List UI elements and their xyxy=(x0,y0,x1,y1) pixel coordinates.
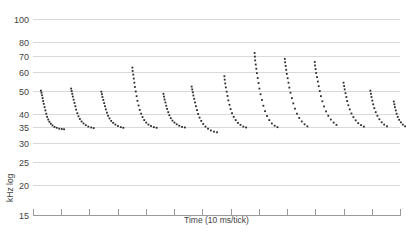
data-point xyxy=(200,120,202,122)
data-point xyxy=(320,95,322,97)
data-point xyxy=(41,92,43,94)
data-point xyxy=(50,123,52,125)
data-point xyxy=(235,119,237,121)
y-axis-title: kHz log xyxy=(5,173,15,202)
data-point xyxy=(375,111,377,113)
data-point xyxy=(194,102,196,104)
data-point xyxy=(286,73,288,75)
data-point xyxy=(78,115,80,117)
data-point xyxy=(254,60,256,62)
data-point xyxy=(344,89,346,91)
y-axis-tick-label: 70 xyxy=(19,52,29,62)
data-point xyxy=(47,119,49,121)
data-point xyxy=(142,116,144,118)
data-point xyxy=(314,65,316,67)
data-point xyxy=(192,91,194,93)
data-point xyxy=(193,98,195,100)
data-point xyxy=(259,88,261,90)
data-point xyxy=(205,126,207,128)
data-point xyxy=(137,100,139,102)
data-point xyxy=(202,123,204,125)
data-point xyxy=(134,86,136,88)
data-point xyxy=(224,79,226,81)
data-point xyxy=(304,123,306,125)
data-point xyxy=(115,124,117,126)
data-point xyxy=(79,118,81,120)
data-point xyxy=(315,68,317,70)
data-series xyxy=(100,91,124,129)
data-point xyxy=(226,91,228,93)
data-point xyxy=(397,116,399,118)
y-axis-tick-label: 100 xyxy=(14,15,29,25)
data-series xyxy=(284,58,308,127)
data-point xyxy=(343,85,345,87)
data-point xyxy=(156,127,158,129)
data-series xyxy=(191,86,218,134)
data-point xyxy=(351,113,353,115)
data-point xyxy=(378,118,380,120)
data-point xyxy=(132,74,134,76)
data-point xyxy=(224,75,226,77)
data-point xyxy=(196,109,198,111)
data-point xyxy=(266,115,268,117)
data-point xyxy=(260,93,262,95)
data-point xyxy=(56,127,58,129)
data-point xyxy=(170,117,172,119)
data-point xyxy=(347,104,349,106)
data-point xyxy=(136,95,138,97)
data-point xyxy=(93,127,95,129)
data-point xyxy=(255,68,257,70)
data-point xyxy=(229,104,231,106)
data-series xyxy=(70,88,94,129)
data-point xyxy=(45,113,47,115)
data-point xyxy=(327,115,329,117)
data-point xyxy=(43,103,45,105)
data-point xyxy=(163,96,165,98)
data-point xyxy=(213,131,215,133)
data-point xyxy=(285,65,287,67)
data-point xyxy=(224,83,226,85)
data-point xyxy=(107,115,109,117)
data-point xyxy=(207,128,209,130)
data-point xyxy=(120,126,122,128)
data-point xyxy=(298,117,300,119)
data-point xyxy=(307,125,309,127)
data-point xyxy=(227,99,229,101)
data-point xyxy=(178,125,180,127)
data-point xyxy=(345,96,347,98)
data-point xyxy=(90,127,92,129)
data-point xyxy=(83,123,85,125)
data-point xyxy=(52,125,54,127)
data-point xyxy=(165,105,167,107)
data-point xyxy=(106,112,108,114)
data-point xyxy=(363,126,365,128)
data-series xyxy=(393,101,406,128)
data-series xyxy=(314,61,338,126)
data-point xyxy=(268,119,270,121)
data-point xyxy=(102,96,104,98)
data-point xyxy=(254,56,256,58)
data-point xyxy=(210,130,212,132)
data-point xyxy=(353,116,355,118)
data-point xyxy=(197,113,199,115)
data-point xyxy=(381,121,383,123)
data-point xyxy=(245,127,247,129)
data-point xyxy=(140,113,142,115)
data-point xyxy=(110,120,112,122)
data-point xyxy=(105,108,107,110)
data-point xyxy=(264,110,266,112)
data-point xyxy=(357,122,359,124)
data-point xyxy=(199,117,201,119)
data-point xyxy=(230,108,232,110)
data-point xyxy=(133,82,135,84)
data-point xyxy=(184,127,186,129)
data-point xyxy=(318,85,320,87)
y-axis-tick-label: 50 xyxy=(19,87,29,97)
data-point xyxy=(287,77,289,79)
scatter-chart: 10080706050403530252015Time (10 ms/tick)… xyxy=(0,0,406,238)
data-point xyxy=(258,82,260,84)
data-point xyxy=(371,100,373,102)
data-point xyxy=(255,64,257,66)
data-point xyxy=(71,90,73,92)
data-point xyxy=(181,126,183,128)
